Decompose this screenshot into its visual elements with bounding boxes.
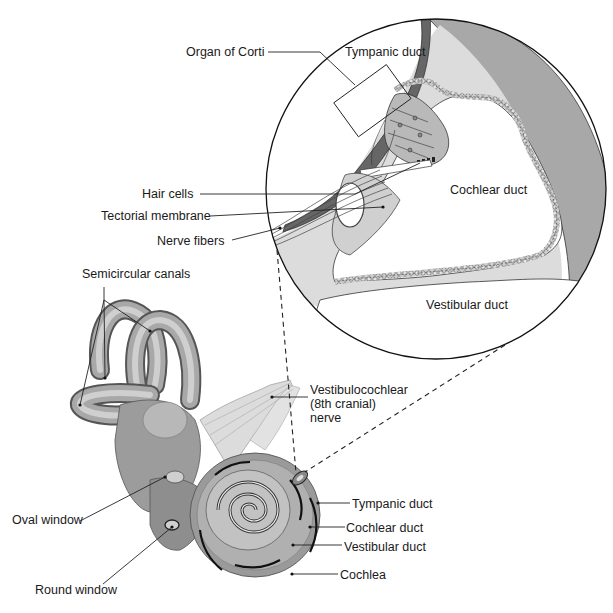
inner-ear-diagram: Organ of Corti Tympanic duct Hair cells … [0, 0, 613, 613]
label-round-window: Round window [35, 583, 117, 597]
label-cochlear-duct-magnified: Cochlear duct [450, 183, 527, 197]
label-cochlear-duct: Cochlear duct [346, 521, 423, 535]
diagram-canvas [0, 0, 613, 613]
label-nerve-fibers: Nerve fibers [157, 234, 224, 248]
label-vestibulocochlear-nerve: Vestibulocochlear (8th cranial) nerve [310, 383, 408, 425]
semicircular-canals [80, 309, 191, 415]
label-vestibular-duct: Vestibular duct [344, 540, 426, 554]
label-tympanic-duct: Tympanic duct [352, 497, 433, 511]
label-semicircular-canals: Semicircular canals [82, 267, 190, 281]
oval-window [166, 471, 184, 483]
label-tympanic-duct-magnified: Tympanic duct [345, 45, 426, 59]
label-organ-of-corti: Organ of Corti [186, 45, 265, 59]
cochlea [190, 453, 320, 577]
label-tectorial-membrane: Tectorial membrane [101, 209, 211, 223]
label-hair-cells: Hair cells [142, 187, 193, 201]
label-vestibular-duct-magnified: Vestibular duct [426, 298, 508, 312]
label-oval-window: Oval window [12, 513, 83, 527]
label-cochlea: Cochlea [340, 568, 386, 582]
